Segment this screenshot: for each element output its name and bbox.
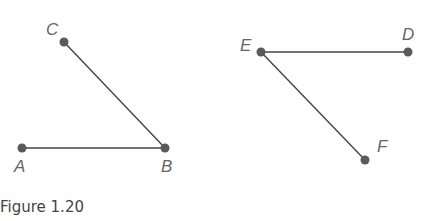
label-f: F: [377, 137, 389, 156]
segment-ef: [261, 52, 365, 160]
point-c: [60, 38, 69, 47]
figure-caption: Figure 1.20: [0, 198, 84, 216]
point-f: [361, 156, 370, 165]
label-b: B: [161, 157, 172, 176]
point-a: [18, 144, 27, 153]
point-b: [161, 144, 170, 153]
label-c: C: [46, 20, 59, 39]
segment-bc: [64, 42, 165, 148]
point-e: [257, 48, 266, 57]
label-d: D: [402, 25, 414, 44]
point-d: [404, 48, 413, 57]
label-e: E: [240, 36, 252, 55]
angle-abc: A B C: [13, 20, 172, 176]
angle-def: E D F: [240, 25, 414, 165]
geometry-figure: A B C E D F: [0, 0, 436, 221]
label-a: A: [13, 157, 25, 176]
